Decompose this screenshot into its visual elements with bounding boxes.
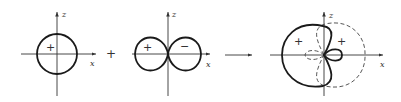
p-right-sign-label: −	[180, 40, 189, 53]
z-axis-label: z	[61, 10, 67, 19]
z-axis-label: z	[328, 11, 334, 20]
s-orbital-panel: z x +	[21, 10, 96, 96]
sp-hybrid-panel: z x + +	[270, 11, 385, 96]
x-axis-label: x	[90, 59, 95, 68]
h1-sign-label: +	[294, 35, 303, 48]
p-left-sign-label: +	[143, 41, 152, 54]
s-sign-label: +	[46, 41, 55, 54]
p-orbital-panel: z x + −	[132, 10, 211, 96]
h2-sign-label: +	[337, 35, 346, 48]
x-axis-label: x	[206, 60, 211, 69]
x-axis-label: x	[380, 60, 385, 69]
plus-operator: +	[106, 47, 116, 61]
orbital-hybridization-diagram: z x + + z x + − z x + +	[0, 0, 401, 102]
z-axis-label: z	[171, 10, 177, 19]
